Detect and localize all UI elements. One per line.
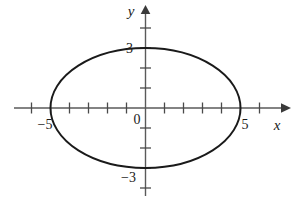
x-axis-arrowhead: [281, 103, 291, 113]
origin-label: 0: [134, 112, 141, 127]
x-tick-label-neg5: −5: [38, 117, 53, 132]
y-axis-arrowhead: [141, 5, 151, 14]
figure-canvas: y x 3 −3 −5 5 0: [0, 0, 297, 204]
y-tick-label-3: 3: [126, 41, 133, 56]
y-tick-label-neg3: −3: [121, 170, 136, 185]
x-axis-label: x: [273, 117, 281, 133]
y-axis-label: y: [126, 3, 135, 19]
x-tick-label-5: 5: [242, 117, 249, 132]
ellipse-graph: y x 3 −3 −5 5 0: [0, 0, 297, 204]
